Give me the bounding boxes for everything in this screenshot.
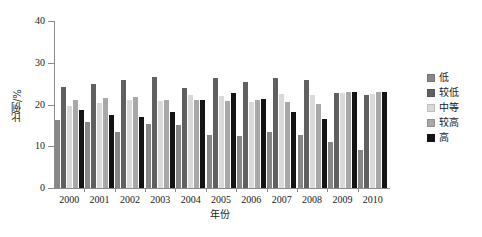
legend-label: 较低 (439, 88, 459, 98)
legend-item: 较高 (427, 116, 482, 130)
x-axis-tick (236, 188, 237, 192)
bar (316, 104, 321, 188)
bar (358, 150, 363, 188)
x-axis-tick (115, 188, 116, 192)
bar (170, 112, 175, 188)
bar (139, 117, 144, 188)
bar (213, 78, 218, 188)
bar (249, 102, 254, 188)
bar (352, 92, 357, 188)
bar (133, 97, 138, 188)
x-axis-tick (358, 188, 359, 192)
bar (261, 99, 266, 188)
x-axis-tick-label: 2007 (272, 195, 292, 205)
legend-swatch-icon (427, 74, 435, 82)
x-axis-tick (206, 188, 207, 192)
bar (267, 132, 272, 188)
bar (188, 95, 193, 188)
bar (322, 119, 327, 188)
bar (67, 106, 72, 188)
y-axis-tick (48, 146, 54, 147)
x-axis-tick (327, 188, 328, 192)
bar (103, 98, 108, 188)
bar (97, 103, 102, 188)
bar (85, 122, 90, 188)
bar (291, 112, 296, 188)
bar (328, 142, 333, 188)
x-axis-tick-label: 2000 (59, 195, 79, 205)
bar (207, 135, 212, 188)
x-axis-tick-label: 2008 (302, 195, 322, 205)
bar (243, 82, 248, 188)
bar (91, 84, 96, 188)
bar (382, 92, 387, 188)
x-axis-tick (267, 188, 268, 192)
bar (182, 88, 187, 188)
bar (146, 124, 151, 188)
bar (285, 102, 290, 188)
y-axis-tick (48, 105, 54, 106)
legend-swatch-icon (427, 134, 435, 142)
bar (61, 87, 66, 188)
bar (370, 94, 375, 188)
bar (310, 95, 315, 188)
y-axis-tick-label: 10 (35, 141, 45, 151)
legend-item: 低 (427, 71, 482, 85)
bar (55, 120, 60, 188)
x-axis-title: 年份 (0, 206, 440, 221)
legend-label: 中等 (439, 103, 459, 113)
bar (200, 100, 205, 188)
bar (304, 80, 309, 188)
x-axis-tick (297, 188, 298, 192)
legend-item: 较低 (427, 86, 482, 100)
y-axis-tick-label: 30 (35, 58, 45, 68)
x-axis-tick-label: 2002 (120, 195, 140, 205)
bar (279, 94, 284, 188)
legend-swatch-icon (427, 89, 435, 97)
bar (237, 136, 242, 188)
legend-item: 高 (427, 131, 482, 145)
bar (340, 93, 345, 188)
y-axis-tick (48, 63, 54, 64)
legend-swatch-icon (427, 119, 435, 127)
bar (334, 93, 339, 188)
bar (273, 78, 278, 188)
x-axis-tick-label: 2004 (181, 195, 201, 205)
bar (115, 132, 120, 188)
bar (164, 100, 169, 188)
plot-area: 0102030402000200120022003200420052006200… (54, 21, 388, 188)
legend-label: 较高 (439, 118, 459, 128)
bar (176, 125, 181, 188)
bar-chart: 比例/% 01020304020002001200220032004200520… (0, 0, 482, 237)
y-axis-tick-label: 20 (35, 100, 45, 110)
bar (219, 96, 224, 188)
bar (255, 100, 260, 189)
bar (127, 100, 132, 188)
x-axis-tick-label: 2005 (211, 195, 231, 205)
legend-item: 中等 (427, 101, 482, 115)
y-axis-tick-label: 40 (35, 16, 45, 26)
x-axis-tick-label: 2003 (150, 195, 170, 205)
x-axis-tick (84, 188, 85, 192)
y-axis-tick-label: 0 (40, 183, 45, 193)
legend-label: 低 (439, 73, 449, 83)
x-axis-tick-label: 2010 (363, 195, 383, 205)
x-axis-tick (175, 188, 176, 192)
y-axis-tick (48, 188, 54, 189)
x-axis-tick-label: 2001 (90, 195, 110, 205)
bar (121, 80, 126, 188)
bar (346, 92, 351, 188)
x-axis-tick-label: 2009 (332, 195, 352, 205)
y-axis-tick (48, 21, 54, 22)
bar (376, 92, 381, 188)
bar (364, 95, 369, 188)
bar (194, 100, 199, 189)
x-axis-line (54, 188, 390, 189)
bar (298, 135, 303, 188)
bar (73, 100, 78, 188)
x-axis-tick-label: 2006 (241, 195, 261, 205)
bar (231, 93, 236, 188)
y-axis-title: 比例/% (8, 66, 26, 146)
legend-label: 高 (439, 133, 449, 143)
x-axis-tick (145, 188, 146, 192)
